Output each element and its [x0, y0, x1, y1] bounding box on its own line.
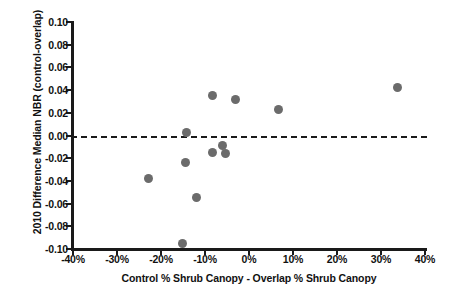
y-tick-label: 0.00 — [22, 131, 68, 141]
data-point — [182, 128, 191, 137]
y-tick-label: -0.02 — [22, 153, 68, 163]
x-axis-title: Control % Shrub Canopy - Overlap % Shrub… — [73, 272, 425, 284]
y-axis-title: 2010 Difference Median NBR (control-over… — [31, 0, 43, 247]
x-tick-label: 20% — [315, 254, 359, 265]
x-tick-label: -20% — [139, 254, 183, 265]
y-tick-label: 0.08 — [22, 40, 68, 50]
y-tick-label: 0.06 — [22, 62, 68, 72]
y-tick-label: -0.06 — [22, 199, 68, 209]
data-point — [178, 239, 187, 248]
y-tick-label: -0.08 — [22, 221, 68, 231]
y-tick-label: 0.10 — [22, 17, 68, 27]
zero-reference-line — [71, 136, 427, 138]
x-tick-label: 40% — [403, 254, 447, 265]
x-tick-label: -40% — [51, 254, 95, 265]
x-tick-label: 10% — [271, 254, 315, 265]
scatter-chart-figure: 0.100.080.060.040.020.00-0.02-0.04-0.06-… — [0, 0, 449, 300]
x-tick-label: -10% — [183, 254, 227, 265]
y-tick-label: 0.02 — [22, 108, 68, 118]
y-tick-label: -0.04 — [22, 176, 68, 186]
x-tick-label: 30% — [359, 254, 403, 265]
x-tick-label: -30% — [95, 254, 139, 265]
data-point — [208, 148, 217, 157]
x-tick-label: 0% — [227, 254, 271, 265]
data-point — [231, 95, 240, 104]
y-tick-label: 0.04 — [22, 85, 68, 95]
